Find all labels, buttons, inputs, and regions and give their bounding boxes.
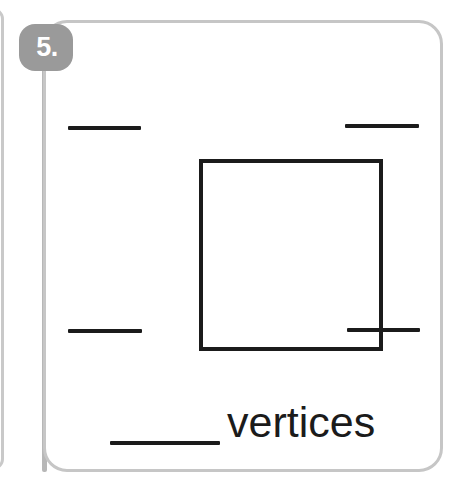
item-number-label: 5. (34, 34, 58, 61)
corner-blank-bottom-left[interactable] (68, 329, 142, 333)
corner-blank-bottom-right[interactable] (347, 328, 420, 332)
square-shape-figure (199, 159, 383, 351)
corner-blank-top-left[interactable] (68, 126, 141, 130)
answer-label-vertices: vertices (227, 398, 375, 446)
answer-row: vertices (108, 398, 408, 450)
adjacent-card-fragment (0, 8, 4, 470)
corner-blank-top-right[interactable] (345, 124, 419, 128)
vertices-count-blank[interactable] (110, 441, 220, 445)
item-number-badge: 5. (19, 24, 73, 71)
worksheet-screen: 5. vertices (0, 0, 455, 484)
